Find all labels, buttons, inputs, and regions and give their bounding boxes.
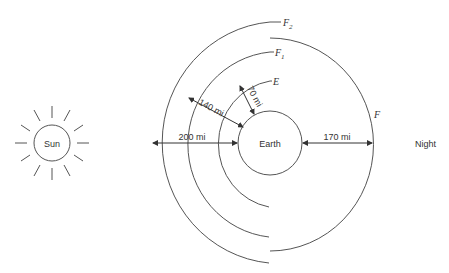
night-label: Night — [415, 139, 437, 149]
layer-e-label: E — [272, 76, 279, 87]
layer-f-label: F — [373, 109, 381, 120]
layer-f2-label: F2 — [282, 17, 293, 31]
f-night-height-label: 170 mi — [323, 132, 350, 142]
layer-f1-label: F1 — [274, 47, 285, 61]
sun-label: Sun — [44, 139, 60, 149]
earth-label: Earth — [259, 139, 281, 149]
f2-height-label: 200 mi — [178, 132, 205, 142]
ionosphere-diagram: Sun Earth F2 F1 E F 200 mi 170 mi 140 mi… — [0, 0, 449, 273]
earth: Earth — [238, 111, 302, 175]
f1-height-label: 140 mi — [197, 97, 226, 119]
sun: Sun — [15, 106, 89, 180]
e-height-label: 70 mi — [245, 84, 264, 108]
layer-f-night-arc — [270, 38, 373, 251]
layer-f1-arc — [188, 52, 270, 237]
